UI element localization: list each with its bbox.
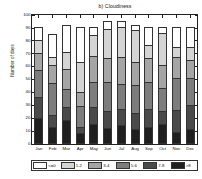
bar-segment [144,27,153,46]
bar-apr[interactable] [76,27,85,144]
legend-item[interactable]: 3-4 [87,162,115,169]
bar-segment [144,82,153,109]
bar-segment [117,126,126,144]
bar-may[interactable] [89,27,98,144]
plot-inner: 0102030405060708090100JanFebMarAprMayJun… [32,15,197,144]
x-tick-label: Aug [131,146,139,151]
segment-divider [62,107,71,108]
bar-feb[interactable] [48,34,57,144]
y-tick-mark [195,131,198,132]
bar-segment [48,34,57,57]
segment-divider [186,105,195,106]
segment-divider [89,124,98,125]
bar-segment [48,83,57,115]
segment-divider [131,30,140,31]
bar-sep[interactable] [144,27,153,144]
bar-segment [48,116,57,128]
segment-divider [89,107,98,108]
bar-segment [186,105,195,130]
y-tick-label: 60 [26,63,31,68]
segment-divider [172,47,181,48]
bar-segment [76,92,85,106]
segment-divider [48,65,57,66]
bar-jan[interactable] [34,27,43,144]
bar-segment [34,118,43,144]
segment-divider [34,70,43,71]
x-tick-mark [148,15,149,18]
bar-nov[interactable] [172,27,181,144]
legend-item[interactable]: 5-6 [115,162,143,169]
bar-segment [131,130,140,144]
segment-divider [158,65,167,66]
x-tick-label: Sep [145,146,153,151]
y-tick-mark [195,66,198,67]
segment-divider [186,47,195,48]
bar-segment [34,98,43,119]
y-tick-mark [195,118,198,119]
y-tick-label: 50 [26,76,31,81]
segment-divider [117,57,126,58]
bar-segment [34,54,43,71]
bar-segment [131,30,140,62]
bar-jul[interactable] [117,21,126,144]
y-tick-mark [32,15,35,16]
plot-area: 0102030405060708090100JanFebMarAprMayJun… [31,14,198,145]
y-tick-mark [195,79,198,80]
segment-divider [131,85,140,86]
legend-item[interactable]: 7-8 [142,162,170,169]
segment-divider [117,84,126,85]
x-tick-label: Nov [172,146,180,151]
y-tick-label: 0 [28,141,30,146]
bar-segment [117,85,126,110]
segment-divider [172,57,181,58]
legend-swatch-icon [88,162,102,169]
x-tick-mark [80,15,81,18]
bar-segment [144,59,153,82]
segment-divider [76,133,85,134]
bar-mar[interactable] [62,25,71,144]
legend-item[interactable]: 1-2 [60,162,88,169]
bar-segment [34,27,43,41]
bar-segment [76,134,85,144]
x-tick-label: Mar [63,146,71,151]
bar-segment [158,125,167,144]
y-tick-label: 30 [26,102,31,107]
segment-divider [62,120,71,121]
y-tick-mark [195,15,198,16]
x-tick-label: May [90,146,98,151]
bar-segment [158,112,167,125]
x-tick-mark [190,15,191,18]
x-tick-label: Dec [186,146,194,151]
segment-divider [76,106,85,107]
legend-label: 5-6 [131,163,137,168]
bar-jun[interactable] [103,21,112,144]
bar-segment [76,63,85,93]
bar-segment [103,112,112,129]
bar-aug[interactable] [131,25,140,144]
chart-figure: b) Cloudiness Number of days 01020304050… [0,0,202,179]
x-tick-mark [176,15,177,18]
bar-segment [62,69,71,90]
y-tick-label: 40 [26,89,31,94]
y-tick-label: 20 [26,115,31,120]
bar-segment [186,60,195,78]
segment-divider [89,82,98,83]
bar-segment [62,90,71,108]
bar-dec[interactable] [186,27,195,144]
bar-segment [62,25,71,52]
segment-divider [117,109,126,110]
segment-divider [62,89,71,90]
legend-item[interactable]: >8 [170,162,198,169]
segment-divider [117,27,126,28]
bar-segment [103,29,112,59]
bar-oct[interactable] [158,27,167,144]
legend-swatch-icon [171,162,185,169]
bar-segment [131,63,140,86]
y-tick-label: 80 [26,38,31,43]
segment-divider [131,113,140,114]
segment-divider [34,97,43,98]
legend-item[interactable]: <=0 [32,162,60,169]
bar-segment [48,127,57,144]
segment-divider [34,118,43,119]
bar-segment [172,27,181,48]
